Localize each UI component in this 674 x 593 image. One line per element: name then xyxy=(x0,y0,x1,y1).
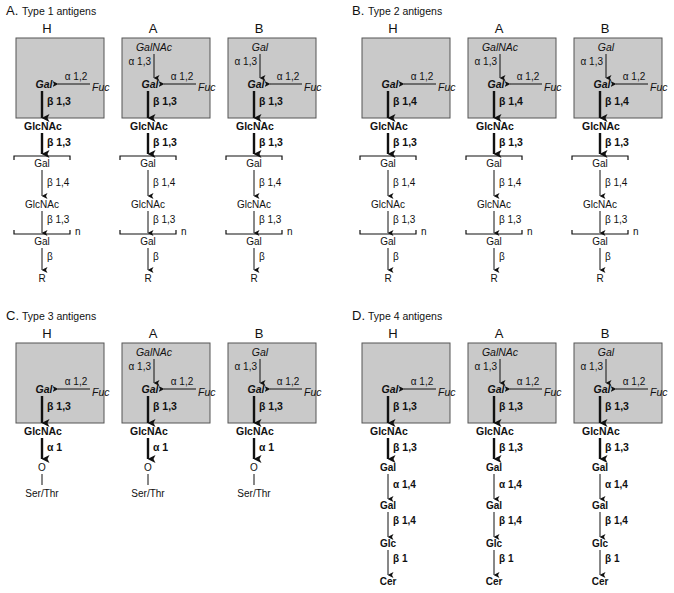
column-header: A xyxy=(495,21,504,36)
linkage-label: α 1,4 xyxy=(605,479,628,490)
linkage-label: β 1,3 xyxy=(393,136,417,148)
linkage-label: β 1,4 xyxy=(47,177,70,188)
gal-label: Gal xyxy=(140,158,156,169)
linkage-label: β 1,3 xyxy=(47,136,71,148)
glcnac-label: GlcNAc xyxy=(130,425,168,437)
o-label: O xyxy=(38,462,46,473)
fuc-label: Fuc xyxy=(650,81,668,93)
glcnac-label: GlcNAc xyxy=(237,199,271,210)
linkage-label: α 1 xyxy=(259,441,274,453)
gal-label: Gal xyxy=(594,78,612,90)
panel-letter: D. xyxy=(352,308,365,323)
linkage-label: β xyxy=(605,251,611,262)
gal-label: Gal xyxy=(380,236,396,247)
glcnac-label: GlcNAc xyxy=(583,199,617,210)
column-b: BGalα 1,3Galα 1,2Fucβ 1,4GlcNAcβ 1,3Galβ… xyxy=(572,21,668,284)
column-header: A xyxy=(149,326,158,341)
gal-label: Gal xyxy=(380,158,396,169)
linkage-label: β 1 xyxy=(605,553,620,564)
linkage-label: β 1,3 xyxy=(153,95,177,107)
panel-title: Type 2 antigens xyxy=(368,5,442,17)
panel-letter: A. xyxy=(6,3,18,18)
linkage-label: β 1,3 xyxy=(499,214,522,225)
fuc-label: Fuc xyxy=(544,81,562,93)
linkage-label: β 1,4 xyxy=(605,177,628,188)
linkage-label: α 1,4 xyxy=(393,479,416,490)
r-label: R xyxy=(38,273,45,284)
gal-label: Gal xyxy=(34,158,50,169)
column-h: HGalα 1,2Fucβ 1,4GlcNAcβ 1,3Galβ 1,4GlcN… xyxy=(360,21,456,284)
linkage-label: α 1 xyxy=(47,441,62,453)
linkage-label: β 1,3 xyxy=(47,400,71,412)
column-header: A xyxy=(495,326,504,341)
fuc-label: Fuc xyxy=(304,81,322,93)
column-header: B xyxy=(601,326,610,341)
panel-c: C.Type 3 antigensHGalα 1,2Fucβ 1,3GlcNAc… xyxy=(6,308,322,499)
terminal-sugar: GalNAc xyxy=(136,41,173,53)
fuc-label: Fuc xyxy=(304,386,322,398)
linkage-label: α 1,3 xyxy=(475,361,498,372)
ser-thr-label: Ser/Thr xyxy=(25,488,59,499)
glcnac-label: GlcNAc xyxy=(370,120,408,132)
glcnac-label: GlcNAc xyxy=(236,120,274,132)
linkage-label: β 1,4 xyxy=(499,515,522,526)
linkage-label: β 1,4 xyxy=(605,95,629,107)
linkage-label: β 1,3 xyxy=(47,214,70,225)
linkage-label: β 1,3 xyxy=(393,441,417,453)
linkage-label: α 1,2 xyxy=(65,71,88,82)
linkage-label: α 1,3 xyxy=(235,56,258,67)
linkage-label: β 1,3 xyxy=(605,441,629,453)
terminal-sugar: Gal xyxy=(598,346,615,358)
column-header: H xyxy=(388,21,397,36)
gal-label: Gal xyxy=(140,236,156,247)
gal-label: Gal xyxy=(246,236,262,247)
linkage-label: β xyxy=(47,251,53,262)
glcnac-label: GlcNAc xyxy=(24,425,62,437)
gal-label: Gal xyxy=(486,236,502,247)
linkage-label: β 1,4 xyxy=(605,515,628,526)
panel-title: Type 3 antigens xyxy=(22,310,96,322)
column-header: A xyxy=(149,21,158,36)
terminal-sugar: GalNAc xyxy=(136,346,173,358)
linkage-label: β 1,3 xyxy=(259,136,283,148)
linkage-label: α 1,2 xyxy=(171,71,194,82)
gal-label: Gal xyxy=(36,78,54,90)
repeat-count-label: n xyxy=(421,226,427,237)
gal-label: Gal xyxy=(592,158,608,169)
linkage-label: β 1,3 xyxy=(605,136,629,148)
column-a: AGalNAcα 1,3Galα 1,2Fucβ 1,4GlcNAcβ 1,3G… xyxy=(466,21,562,284)
linkage-label: β 1,3 xyxy=(153,136,177,148)
gal-label: Gal xyxy=(486,158,502,169)
column-a: AGalNAcα 1,3Galα 1,2Fucβ 1,3GlcNAcβ 1,3G… xyxy=(468,326,562,587)
linkage-label: β 1,3 xyxy=(153,214,176,225)
o-label: O xyxy=(250,462,258,473)
linkage-label: α 1,2 xyxy=(517,71,540,82)
linkage-label: α 1,2 xyxy=(277,71,300,82)
gal-label: Gal xyxy=(380,462,396,473)
linkage-label: α 1,3 xyxy=(475,56,498,67)
panel-a: A.Type 1 antigensHGalα 1,2Fucβ 1,3GlcNAc… xyxy=(6,3,322,284)
column-h: HGalα 1,2Fucβ 1,3GlcNAcα 1OSer/Thr xyxy=(16,326,110,499)
linkage-label: α 1,2 xyxy=(517,376,540,387)
glcnac-label: GlcNAc xyxy=(476,425,514,437)
linkage-label: α 1,3 xyxy=(581,56,604,67)
glcnac-label: GlcNAc xyxy=(131,199,165,210)
linkage-label: β 1,4 xyxy=(393,515,416,526)
terminal-sugar: GalNAc xyxy=(482,41,519,53)
linkage-label: α 1,2 xyxy=(65,376,88,387)
column-header: B xyxy=(255,326,264,341)
linkage-label: α 1,2 xyxy=(171,376,194,387)
column-header: H xyxy=(42,326,51,341)
linkage-label: α 1,2 xyxy=(623,71,646,82)
repeat-count-label: n xyxy=(181,226,187,237)
linkage-label: α 1,4 xyxy=(499,479,522,490)
panel-d: D.Type 4 antigensHGalα 1,2Fucβ 1,3GlcNAc… xyxy=(352,308,668,587)
linkage-label: α 1,3 xyxy=(581,361,604,372)
linkage-label: β 1,4 xyxy=(499,177,522,188)
linkage-label: α 1,3 xyxy=(129,56,152,67)
linkage-label: α 1 xyxy=(153,441,168,453)
r-label: R xyxy=(490,273,497,284)
gal-label: Gal xyxy=(488,383,506,395)
linkage-label: β 1,3 xyxy=(499,400,523,412)
gal-label: Gal xyxy=(36,383,54,395)
